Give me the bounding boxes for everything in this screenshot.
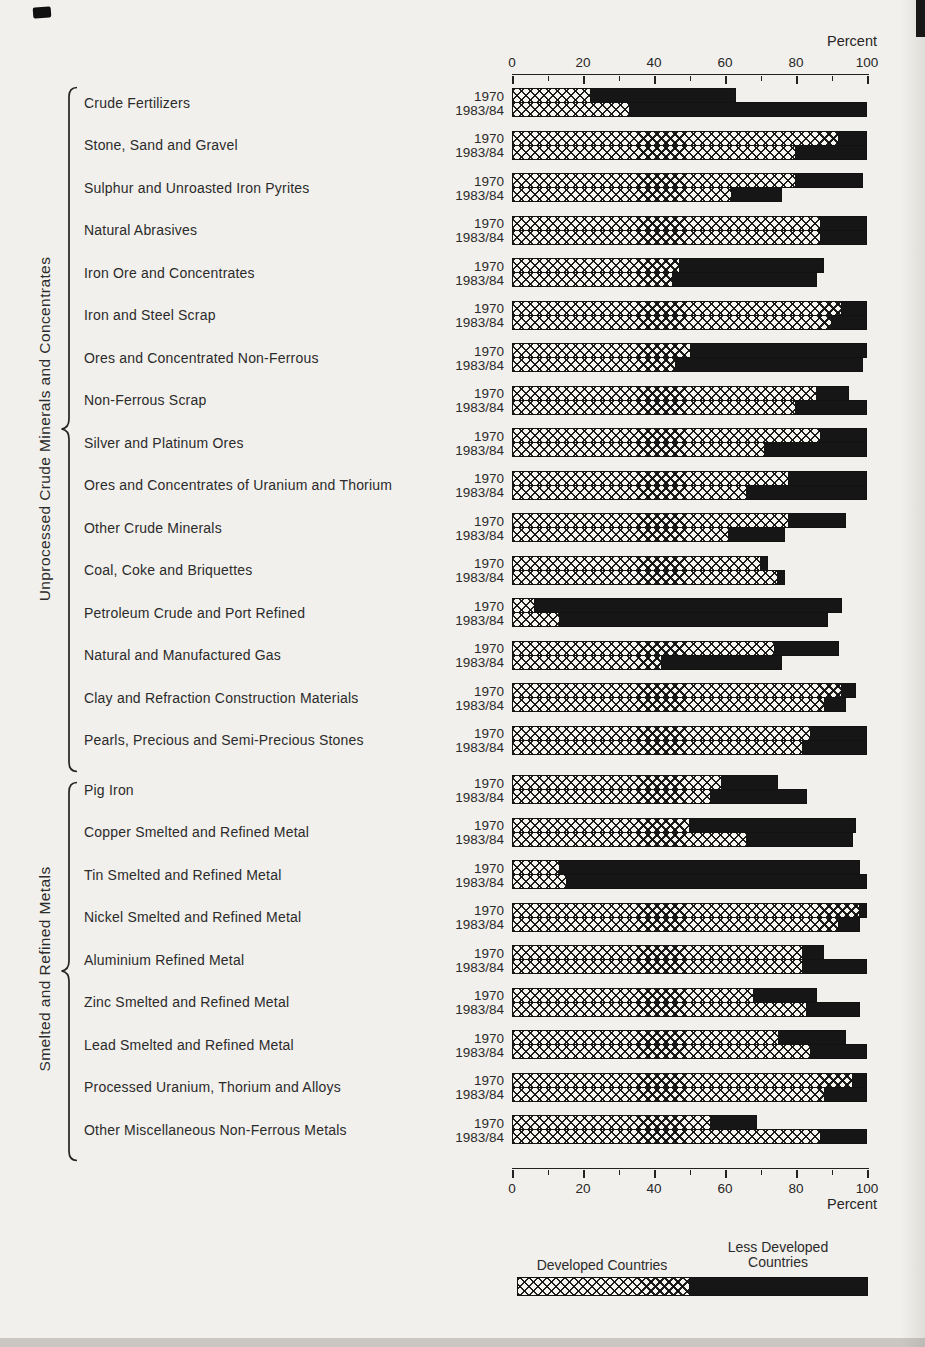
scan-shadow-right-edge (901, 0, 925, 1347)
developed-segment (513, 217, 820, 230)
year-label: 1970 (430, 1031, 504, 1046)
developed-segment (513, 790, 710, 803)
stacked-bar-1983-84 (512, 400, 867, 415)
axis-major-tick (583, 1170, 585, 1178)
legend-developed-segment (518, 1278, 689, 1295)
axis-tick-label: 80 (788, 1181, 803, 1196)
stacked-bar-1970 (512, 860, 860, 875)
category-label: Aluminium Refined Metal (84, 952, 244, 968)
stacked-bar-1970 (512, 556, 768, 571)
developed-segment (513, 1130, 820, 1143)
axis-minor-tick (619, 76, 621, 81)
year-label: 1970 (430, 89, 504, 104)
year-label: 1983/84 (430, 443, 504, 458)
stacked-bar-1983-84 (512, 145, 867, 160)
year-label: 1983/84 (430, 960, 504, 975)
axis-major-tick (512, 76, 514, 84)
scanned-chart-page: Percent 020406080100 Crude Fertilizers19… (0, 0, 925, 1347)
year-label: 1970 (430, 131, 504, 146)
stacked-bar-1983-84 (512, 485, 867, 500)
category-label: Zinc Smelted and Refined Metal (84, 994, 289, 1010)
category-label: Tin Smelted and Refined Metal (84, 867, 282, 883)
axis-minor-tick (761, 1170, 763, 1175)
developed-segment (513, 918, 838, 931)
stacked-bar-1970 (512, 428, 867, 443)
developed-segment (513, 571, 777, 584)
developed-segment (513, 528, 728, 541)
developed-segment (513, 259, 679, 272)
stacked-bar-1970 (512, 386, 849, 401)
developed-segment (513, 989, 753, 1002)
axis-tick-label: 80 (788, 55, 803, 70)
axis-tick-label: 40 (646, 55, 661, 70)
developed-segment (513, 684, 841, 697)
year-label: 1983/84 (430, 917, 504, 932)
stacked-bar-1970 (512, 1073, 867, 1088)
developed-segment (513, 613, 559, 626)
year-label: 1983/84 (430, 790, 504, 805)
category-label: Clay and Refraction Construction Materia… (84, 690, 359, 706)
stacked-bar-1970 (512, 726, 867, 741)
year-label: 1970 (430, 641, 504, 656)
developed-segment (513, 1116, 710, 1129)
stacked-bar-1970 (512, 258, 824, 273)
stacked-bar-1970 (512, 513, 846, 528)
axis-tick-label: 100 (856, 1181, 879, 1196)
developed-segment (513, 89, 590, 102)
year-label: 1983/84 (430, 145, 504, 160)
year-label: 1983/84 (430, 875, 504, 890)
developed-segment (513, 132, 838, 145)
year-label: 1983/84 (430, 528, 504, 543)
category-label: Other Miscellaneous Non-Ferrous Metals (84, 1122, 347, 1138)
year-label: 1983/84 (430, 613, 504, 628)
axis-minor-tick (619, 1170, 621, 1175)
stacked-bar-1983-84 (512, 959, 867, 974)
axis-minor-tick (832, 1170, 834, 1175)
stacked-bar-1983-84 (512, 832, 853, 847)
year-label: 1970 (430, 726, 504, 741)
developed-segment (513, 1088, 824, 1101)
axis-major-tick (654, 1170, 656, 1178)
stacked-bar-1970 (512, 945, 824, 960)
stacked-bar-1970 (512, 301, 867, 316)
developed-segment (513, 698, 824, 711)
developed-segment (513, 486, 746, 499)
group-label-smelted: Smelted and Refined Metals (36, 719, 54, 1219)
legend-bar (517, 1277, 868, 1296)
year-label: 1983/84 (430, 358, 504, 373)
bottom-axis-percent-label: Percent (727, 1196, 877, 1212)
axis-tick-label: 40 (646, 1181, 661, 1196)
year-label: 1970 (430, 903, 504, 918)
stacked-bar-1970 (512, 988, 817, 1003)
axis-major-tick (583, 76, 585, 84)
category-label: Ores and Concentrates of Uranium and Tho… (84, 477, 392, 493)
year-label: 1983/84 (430, 1130, 504, 1145)
legend-developed-label: Developed Countries (502, 1258, 702, 1273)
scan-shadow-bottom-edge (0, 1338, 925, 1347)
axis-major-tick (867, 76, 869, 84)
stacked-bar-1970 (512, 216, 867, 231)
category-label: Processed Uranium, Thorium and Alloys (84, 1079, 341, 1095)
developed-segment (513, 174, 795, 187)
developed-segment (513, 819, 689, 832)
developed-segment (513, 429, 820, 442)
category-label: Iron and Steel Scrap (84, 307, 216, 323)
year-label: 1970 (430, 259, 504, 274)
stacked-bar-1983-84 (512, 187, 782, 202)
year-label: 1970 (430, 1073, 504, 1088)
developed-segment (513, 401, 795, 414)
axis-minor-tick (690, 76, 692, 81)
developed-segment (513, 875, 566, 888)
stacked-bar-1983-84 (512, 740, 867, 755)
year-label: 1970 (430, 301, 504, 316)
category-label: Natural and Manufactured Gas (84, 647, 281, 663)
developed-segment (513, 656, 661, 669)
stacked-bar-1983-84 (512, 442, 867, 457)
year-label: 1970 (430, 946, 504, 961)
stacked-bar-1970 (512, 88, 736, 103)
year-label: 1970 (430, 776, 504, 791)
axis-minor-tick (690, 1170, 692, 1175)
axis-minor-tick (548, 1170, 550, 1175)
scan-artifact-top-left (33, 6, 52, 18)
developed-segment (513, 946, 802, 959)
